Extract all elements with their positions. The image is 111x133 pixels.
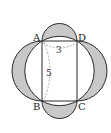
vertex-label-b: B: [33, 101, 40, 112]
vertex-label-c: C: [78, 101, 86, 112]
shaded-lunes: [12, 24, 107, 119]
vertex-label-a: A: [32, 32, 41, 43]
geometry-diagram: A D B C 3 5: [0, 0, 111, 133]
vertex-label-d: D: [78, 32, 86, 43]
measure-ad: 3: [56, 45, 62, 55]
measure-ab: 5: [46, 68, 52, 78]
